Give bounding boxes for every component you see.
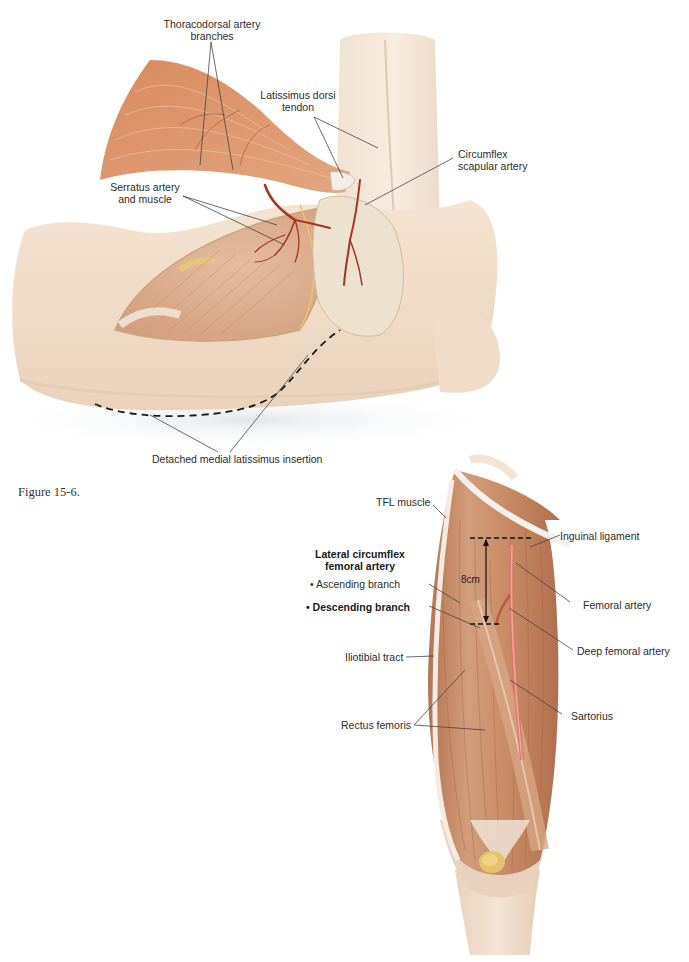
measurement-8cm: 8cm xyxy=(461,574,480,585)
label-line: scapular artery xyxy=(458,160,527,172)
label-line: and muscle xyxy=(100,193,190,205)
label-inguinal-ligament: Inguinal ligament xyxy=(560,530,639,542)
label-line: Lateral circumflex xyxy=(305,548,415,560)
thigh-figure: TFL muscle Inguinal ligament Lateral cir… xyxy=(0,450,689,962)
textbook-page: Thoracodorsal artery branches Latissimus… xyxy=(0,0,689,962)
label-sartorius: Sartorius xyxy=(571,710,613,722)
label-femoral-artery: Femoral artery xyxy=(583,599,651,611)
label-serratus: Serratus artery and muscle xyxy=(100,181,190,205)
label-line: Thoracodorsal artery xyxy=(152,18,272,30)
label-rectus-femoris: Rectus femoris xyxy=(341,719,411,731)
label-line: Latissimus dorsi xyxy=(248,89,348,101)
latissimus-illustration xyxy=(0,0,689,470)
label-line: femoral artery xyxy=(305,560,415,572)
latissimus-figure: Thoracodorsal artery branches Latissimus… xyxy=(0,0,689,470)
label-iliotibial-tract: Iliotibial tract xyxy=(345,651,403,663)
label-lateral-circumflex-femoral: Lateral circumflex femoral artery xyxy=(305,548,415,572)
label-descending-branch: • Descending branch xyxy=(306,601,410,613)
label-circumflex-scapular: Circumflex scapular artery xyxy=(458,148,527,172)
label-line: tendon xyxy=(248,101,348,113)
label-ascending-branch: • Ascending branch xyxy=(310,578,400,590)
label-tfl-muscle: TFL muscle xyxy=(376,496,430,508)
thigh-illustration xyxy=(0,450,689,962)
label-latissimus-tendon: Latissimus dorsi tendon xyxy=(248,89,348,113)
label-thoracodorsal-artery: Thoracodorsal artery branches xyxy=(152,18,272,42)
label-line: branches xyxy=(152,30,272,42)
label-line: Circumflex xyxy=(458,148,527,160)
label-deep-femoral-artery: Deep femoral artery xyxy=(577,645,670,657)
label-line: Serratus artery xyxy=(100,181,190,193)
